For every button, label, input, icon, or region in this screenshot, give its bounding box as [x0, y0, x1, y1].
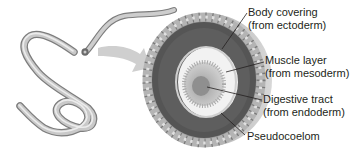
label-pseudocoelom: Pseudocoelom	[247, 130, 320, 143]
label-muscle-layer: Muscle layer (from mesoderm)	[265, 54, 349, 79]
label-digestive-tract: Digestive tract (from endoderm)	[263, 93, 345, 118]
label-digestive-tract-origin: (from endoderm)	[263, 106, 345, 119]
label-muscle-layer-origin: (from mesoderm)	[265, 67, 349, 80]
label-muscle-layer-title: Muscle layer	[265, 54, 349, 67]
cross-section	[146, 14, 272, 146]
arrow-icon	[98, 46, 150, 72]
label-body-covering: Body covering (from ectoderm)	[248, 6, 326, 31]
label-pseudocoelom-title: Pseudocoelom	[247, 130, 320, 143]
label-digestive-tract-title: Digestive tract	[263, 93, 345, 106]
label-body-covering-title: Body covering	[248, 6, 326, 19]
label-body-covering-origin: (from ectoderm)	[248, 19, 326, 32]
